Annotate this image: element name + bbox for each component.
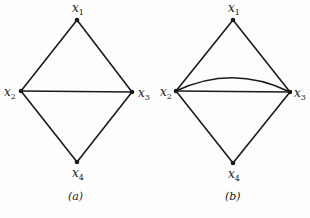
label-x2-a: x2	[4, 86, 16, 101]
label-x4-a: x4	[72, 167, 84, 182]
edge-x2-x4	[21, 91, 77, 162]
edge-x2-x3	[176, 91, 290, 92]
label-x1-a: x1	[72, 2, 84, 17]
node-x3-a	[130, 90, 135, 95]
node-x4-a	[75, 160, 80, 165]
edge-x2-x3-curved	[176, 78, 290, 92]
node-x2-b	[174, 89, 179, 94]
edge-x2-x3	[21, 91, 132, 92]
caption-b: (b)	[225, 190, 241, 203]
label-x3-b: x3	[294, 87, 306, 102]
graph-a	[21, 20, 132, 162]
edge-x1-x2	[21, 20, 77, 91]
edge-x3-x4	[233, 92, 290, 163]
edge-x2-x4	[176, 91, 233, 163]
node-x1-a	[75, 18, 80, 23]
node-x4-b	[231, 161, 236, 166]
caption-a: (a)	[68, 190, 83, 203]
label-x1-b: x1	[228, 2, 240, 17]
label-x4-b: x4	[228, 168, 240, 183]
node-x1-b	[231, 18, 236, 23]
edge-x3-x4	[77, 92, 132, 162]
graph-figure: x1 x2 x3 x4 (a) x1 x2 x3 x4 (b)	[0, 0, 310, 218]
node-x2-a	[19, 89, 24, 94]
node-x3-b	[288, 90, 293, 95]
label-x3-a: x3	[138, 87, 150, 102]
edge-x1-x3	[77, 20, 132, 92]
label-x2-b: x2	[160, 86, 172, 101]
graph-b	[176, 20, 290, 163]
graph-drawing	[0, 0, 310, 218]
